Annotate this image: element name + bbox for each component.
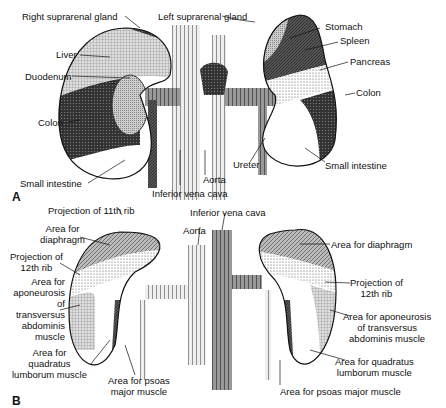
label-right-suprarenal-gland: Right suprarenal gland xyxy=(22,11,118,22)
label-inferior-vena-cava-b: Inferior vena cava xyxy=(190,207,266,218)
label-aponeurosis-left: Area foraponeurosisoftransversusabdomini… xyxy=(5,276,65,342)
label-aorta-b: Aorta xyxy=(183,225,206,236)
label-projection-11th-rib: Projection of 11th rib xyxy=(48,205,134,216)
panel-letter-a: A xyxy=(12,190,21,204)
label-diaphragm-left: Area fordiaphragm xyxy=(40,223,85,245)
label-ureter: Ureter xyxy=(233,159,259,170)
label-quadratus-right: Area for quadratuslumborum muscle xyxy=(335,356,414,378)
panel-letter-b: B xyxy=(12,394,21,408)
label-projection-12th-rib-right: Projection of12th rib xyxy=(350,277,403,299)
label-duodenum: Duodenum xyxy=(25,71,71,82)
label-pancreas: Pancreas xyxy=(350,56,390,67)
label-psoas-left: Area for psoasmajor muscle xyxy=(108,375,170,397)
panel-a-right-kidney xyxy=(50,20,180,200)
label-diaphragm-right: Area for diaphragm xyxy=(331,239,412,250)
label-left-suprarenal-gland: Left suprarenal gland xyxy=(158,11,247,22)
label-aponeurosis-right: Area for aponeurosisof transversusabdomi… xyxy=(343,311,431,344)
label-colon-right: Colon xyxy=(38,117,63,128)
label-aorta-a: Aorta xyxy=(203,174,226,185)
label-projection-12th-rib-left: Projection of12th rib xyxy=(10,251,63,273)
label-small-intestine-right: Small intestine xyxy=(20,178,82,189)
label-inferior-vena-cava-a: Inferior vena cava xyxy=(152,188,228,199)
panel-b-vessels xyxy=(140,230,271,390)
label-colon-left: Colon xyxy=(356,87,381,98)
label-spleen: Spleen xyxy=(340,35,370,46)
label-quadratus-left: Area forquadratuslumborum muscle xyxy=(12,347,87,380)
label-psoas-right: Area for psoas major muscle xyxy=(280,386,401,397)
label-liver: Liver xyxy=(56,49,77,60)
label-small-intestine-left: Small intestine xyxy=(325,160,387,171)
label-stomach: Stomach xyxy=(325,21,363,32)
